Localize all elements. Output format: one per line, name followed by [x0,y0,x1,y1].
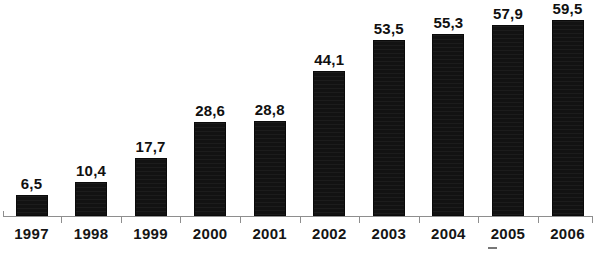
bar-rect [135,158,167,216]
bar-2005: 57,9 [492,0,524,217]
bar-value-label: 28,6 [195,102,225,119]
bar-2003: 53,5 [373,0,405,217]
category-axis-labels: 1997199819992000200120022003200420052006 [0,225,596,247]
bar-rect [492,25,524,216]
x-axis-line [3,216,593,217]
bar-value-label: 10,4 [76,162,106,179]
category-label-2002: 2002 [300,225,360,242]
bar-value-label: 59,5 [553,0,583,17]
bar-1999: 17,7 [135,0,167,217]
axis-tick [478,216,479,223]
axis-tick [538,216,539,223]
scan-artifact-mark [488,247,497,249]
bar-value-label: 55,3 [433,14,463,31]
bar-rect [373,40,405,216]
bar-2004: 55,3 [432,0,464,217]
bar-value-label: 57,9 [493,5,523,22]
axis-tick [240,216,241,223]
category-label-2000: 2000 [180,225,240,242]
bar-value-label: 44,1 [314,51,344,68]
axis-tick [61,216,62,223]
axis-end-cap-right [592,216,593,223]
bar-rect [552,20,584,216]
category-label-2003: 2003 [359,225,419,242]
bar-chart: 6,510,417,728,628,844,153,555,357,959,5 … [0,0,596,257]
category-label-2004: 2004 [419,225,479,242]
axis-tick [359,216,360,223]
plot-area: 6,510,417,728,628,844,153,555,357,959,5 [0,0,596,217]
category-label-2005: 2005 [478,225,538,242]
bar-2001: 28,8 [254,0,286,217]
bar-1998: 10,4 [75,0,107,217]
bar-2000: 28,6 [194,0,226,217]
axis-tick [121,216,122,223]
bar-rect [432,34,464,216]
bar-value-label: 17,7 [136,138,166,155]
axis-tick [419,216,420,223]
bar-value-label: 6,5 [21,175,42,192]
bar-rect [194,122,226,216]
bar-value-label: 28,8 [255,101,285,118]
axis-tick [180,216,181,223]
category-label-1998: 1998 [61,225,121,242]
bar-2006: 59,5 [552,0,584,217]
bars-layer: 6,510,417,728,628,844,153,555,357,959,5 [0,0,596,217]
axis-end-cap-left [3,211,4,217]
bar-1997: 6,5 [16,0,48,217]
bar-rect [16,195,48,216]
category-label-2006: 2006 [538,225,596,242]
axis-tick [300,216,301,223]
bar-rect [313,71,345,216]
bar-value-label: 53,5 [374,20,404,37]
category-label-2001: 2001 [240,225,300,242]
category-label-1999: 1999 [121,225,181,242]
bar-2002: 44,1 [313,0,345,217]
bar-rect [75,182,107,216]
bar-rect [254,121,286,216]
category-label-1997: 1997 [2,225,62,242]
